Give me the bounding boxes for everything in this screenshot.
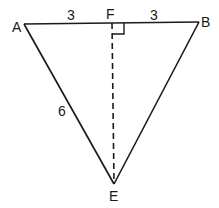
length-label-fb: 3	[150, 7, 158, 23]
vertex-label-b: B	[201, 14, 210, 30]
right-angle-marker	[112, 23, 124, 34]
length-label-af: 3	[67, 7, 75, 23]
edge-be	[114, 22, 199, 184]
altitude-fe	[112, 23, 114, 184]
edge-ae	[24, 24, 114, 184]
vertex-label-f: F	[106, 6, 115, 22]
triangle-diagram: A B F E 3 3 6	[0, 0, 219, 208]
vertex-label-e: E	[109, 188, 118, 204]
length-label-ae: 6	[58, 103, 66, 119]
vertex-label-a: A	[12, 19, 22, 35]
